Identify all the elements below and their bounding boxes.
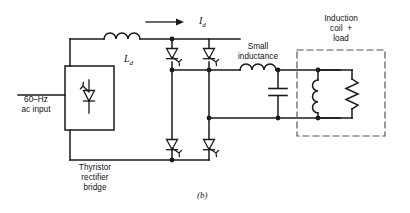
node-bridge-output-right: [207, 116, 212, 121]
figure-caption: (b): [197, 190, 208, 200]
dc-link-inductor-coil: [104, 33, 140, 39]
node-bridge-top-left: [170, 37, 175, 42]
node-coil-top: [316, 68, 321, 73]
ac-input-label: 60–Hz ac input: [8, 95, 64, 115]
dc-link-current-subscript: d: [202, 21, 206, 29]
induction-load-label: Induction coil + load: [300, 14, 382, 45]
dc-link-inductor-subscript: d: [130, 59, 134, 67]
inverter-thyristor-bottom-left: [167, 140, 182, 161]
dc-link-current-label: Id: [189, 4, 206, 40]
node-capacitor-bottom: [276, 116, 281, 121]
rectifier-block-thyristor-symbol: [81, 80, 95, 113]
figure-canvas: 60–Hz ac input Thyristor rectifier bridg…: [0, 0, 410, 213]
dc-link-inductor-label: Ld: [114, 42, 133, 78]
node-bridge-mid-left: [170, 68, 175, 73]
series-inductance-coil: [240, 64, 276, 70]
tank-capacitor: [269, 70, 287, 118]
induction-load-dashed-box: [297, 50, 385, 136]
inverter-thyristor-top-left: [167, 49, 182, 66]
node-bridge-bottom-left: [170, 158, 175, 163]
induction-coil: [313, 70, 319, 118]
node-capacitor-top: [276, 68, 281, 73]
rectifier-bridge-label: Thyristor rectifier bridge: [52, 163, 138, 194]
node-bridge-mid-right: [207, 68, 212, 73]
load-resistor: [346, 70, 358, 118]
node-coil-bottom: [316, 116, 321, 121]
inverter-thyristor-bottom-right: [204, 140, 219, 161]
small-inductance-label: Small inductance: [216, 42, 300, 62]
dc-link-current-arrow: [146, 19, 184, 26]
